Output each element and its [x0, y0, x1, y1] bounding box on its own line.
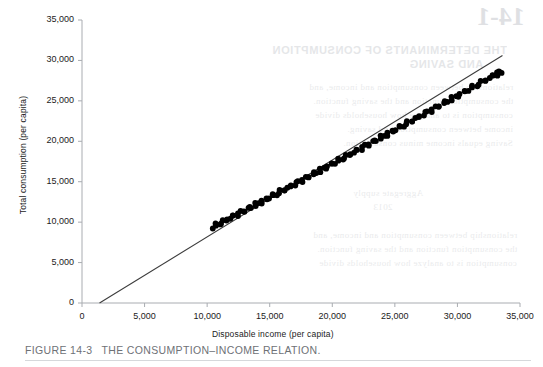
scatter-point [373, 138, 379, 144]
figure-caption-block: FIGURE 14-3 THE CONSUMPTION–INCOME RELAT… [25, 344, 531, 361]
y-tick-label: 5,000 [28, 257, 74, 267]
scatter-point [241, 208, 247, 214]
scatter-point [416, 114, 422, 120]
scatter-point [259, 198, 265, 204]
scatter-point [366, 142, 372, 148]
scatter-point [497, 69, 503, 75]
y-tick-label: 20,000 [28, 135, 74, 145]
x-axis-title: Disposable income (per capita) [212, 329, 334, 339]
scatter-point [436, 104, 442, 110]
scatter-point [449, 94, 455, 100]
scatter-point [277, 187, 283, 193]
caption-row: FIGURE 14-3 THE CONSUMPTION–INCOME RELAT… [25, 344, 531, 356]
scatter-point [384, 130, 390, 136]
x-tick-label: 25,000 [367, 311, 423, 321]
y-tick-label: 15,000 [28, 176, 74, 186]
caption-divider [25, 360, 531, 361]
x-tick-label: 15,000 [242, 311, 298, 321]
scatter-point [335, 156, 341, 162]
y-tick-label: 25,000 [28, 95, 74, 105]
scatter-point [213, 221, 219, 227]
y-tick-label: 30,000 [28, 54, 74, 64]
x-tick-label: 20,000 [304, 311, 360, 321]
x-tick-label: 0 [54, 311, 110, 321]
scatter-point [354, 147, 360, 153]
x-tick-label: 35,000 [492, 311, 543, 321]
y-tick-label: 0 [28, 297, 74, 307]
x-tick-label: 30,000 [429, 311, 485, 321]
figure-consumption-income-relation: Total consumption (per capita) Disposabl… [0, 0, 543, 367]
scatter-points-group [210, 68, 505, 231]
figure-number: FIGURE 14-3 [25, 344, 92, 356]
scatter-point [288, 183, 294, 189]
x-tick-label: 10,000 [179, 311, 235, 321]
scatter-point [457, 91, 463, 97]
scatter-point [469, 83, 475, 89]
scatter-point [306, 174, 312, 180]
scatter-point [404, 118, 410, 124]
y-tick-label: 10,000 [28, 216, 74, 226]
y-axis-title: Total consumption (per capita) [18, 85, 28, 225]
scatter-plot [0, 0, 543, 345]
x-tick-label: 5,000 [117, 311, 173, 321]
y-tick-label: 35,000 [28, 14, 74, 24]
figure-caption-text: THE CONSUMPTION–INCOME RELATION. [101, 344, 320, 356]
